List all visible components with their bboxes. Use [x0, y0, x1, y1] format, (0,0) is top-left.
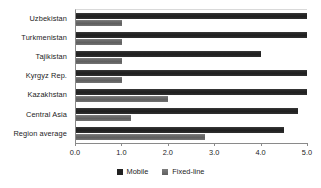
bar-fixed-line [76, 58, 122, 64]
bar-fixed-line [76, 20, 122, 26]
bar-row [76, 10, 307, 29]
plot-area [75, 9, 307, 143]
category-label: Region average [0, 124, 71, 143]
x-tick-label: 5.0 [302, 148, 312, 157]
bar-fixed-line [76, 96, 168, 102]
bar-row [76, 105, 307, 124]
bar-mobile [76, 13, 307, 19]
category-label: Uzbekistan [0, 9, 71, 28]
x-tick-label: 0.0 [70, 148, 80, 157]
legend-item[interactable]: Fixed-line [162, 167, 204, 176]
bar-fixed-line [76, 39, 122, 45]
legend-label: Mobile [127, 167, 149, 176]
horizontal-bar-chart: UzbekistanTurkmenistanTajikistanKyrgyz R… [0, 0, 321, 188]
bar-row [76, 124, 307, 143]
bar-rows [76, 10, 307, 143]
category-label: Turkmenistan [0, 28, 71, 47]
category-label: Kyrgyz Rep. [0, 66, 71, 85]
bar-mobile [76, 127, 284, 133]
x-tick [214, 143, 215, 146]
fixed-line-swatch [162, 169, 168, 175]
chart-legend: MobileFixed-line [0, 167, 321, 176]
x-tick [307, 143, 308, 146]
bar-mobile [76, 108, 298, 114]
category-axis-labels: UzbekistanTurkmenistanTajikistanKyrgyz R… [0, 9, 71, 143]
category-label: Central Asia [0, 105, 71, 124]
legend-item[interactable]: Mobile [117, 167, 149, 176]
x-tick-label: 2.0 [163, 148, 173, 157]
mobile-swatch [117, 169, 123, 175]
bar-mobile [76, 89, 307, 95]
bar-mobile [76, 51, 261, 57]
bar-mobile [76, 32, 307, 38]
x-tick-label: 3.0 [209, 148, 219, 157]
bar-row [76, 29, 307, 48]
x-tick [75, 143, 76, 146]
bar-row [76, 48, 307, 67]
bar-fixed-line [76, 134, 205, 140]
bar-mobile [76, 70, 307, 76]
bar-row [76, 67, 307, 86]
x-tick [261, 143, 262, 146]
bar-fixed-line [76, 115, 131, 121]
x-tick [121, 143, 122, 146]
category-label: Tajikistan [0, 47, 71, 66]
x-tick-label: 4.0 [255, 148, 265, 157]
category-label: Kazakhstan [0, 86, 71, 105]
legend-label: Fixed-line [172, 167, 204, 176]
bar-row [76, 86, 307, 105]
bar-fixed-line [76, 77, 122, 83]
x-tick [168, 143, 169, 146]
x-axis-line [75, 143, 307, 144]
x-tick-label: 1.0 [116, 148, 126, 157]
